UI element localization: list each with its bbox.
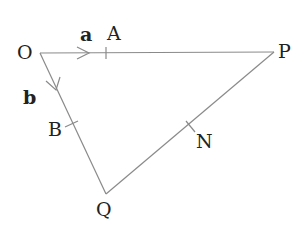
vector-diagram: O A P B N Q a b [0, 0, 305, 229]
label-P: P [278, 40, 291, 62]
line-PQ [106, 52, 274, 194]
tick-B-icon [65, 121, 78, 127]
label-vector-b: b [23, 86, 36, 108]
line-OP [40, 52, 274, 53]
label-O: O [17, 41, 33, 63]
label-Q: Q [96, 198, 112, 220]
label-N: N [196, 130, 213, 152]
label-vector-a: a [80, 23, 92, 45]
label-B: B [48, 118, 62, 140]
label-A: A [106, 22, 121, 44]
arrow-b-icon [46, 77, 60, 90]
